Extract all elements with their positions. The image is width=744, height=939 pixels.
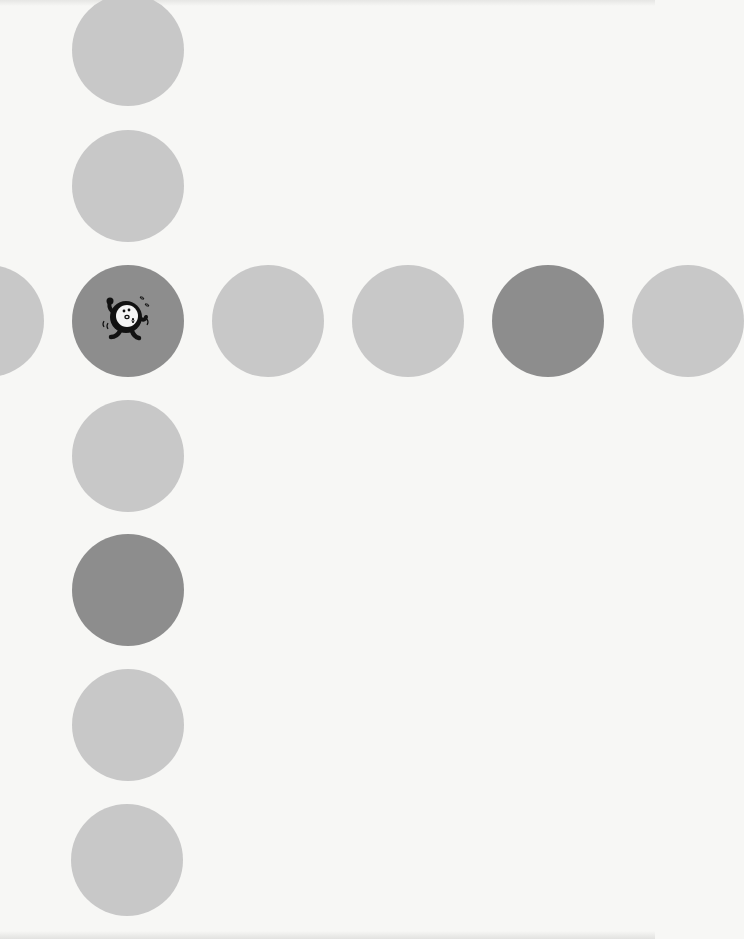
board-space-h4[interactable]	[492, 265, 604, 377]
board-space-v1[interactable]	[72, 0, 184, 106]
board-space-v3-start[interactable]	[72, 265, 184, 377]
board-space-v2[interactable]	[72, 130, 184, 242]
board-space-h0-partial[interactable]	[0, 265, 44, 377]
board-space-v6[interactable]	[72, 669, 184, 781]
board-space-v4[interactable]	[72, 400, 184, 512]
board-space-h3[interactable]	[352, 265, 464, 377]
board-space-v5[interactable]	[72, 534, 184, 646]
board-space-h2[interactable]	[212, 265, 324, 377]
running-ball-character-icon[interactable]	[94, 287, 162, 355]
board-space-h5-partial[interactable]	[632, 265, 744, 377]
page-bottom-edge	[0, 931, 655, 939]
board-space-v7[interactable]	[71, 804, 183, 916]
